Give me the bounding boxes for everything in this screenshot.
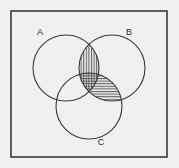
set-label-c: C <box>98 137 105 147</box>
set-label-a: A <box>37 27 43 37</box>
set-label-b: B <box>126 27 132 37</box>
venn-diagram-canvas: A B C <box>0 0 179 168</box>
venn-diagram-figure: A B C <box>0 0 179 168</box>
